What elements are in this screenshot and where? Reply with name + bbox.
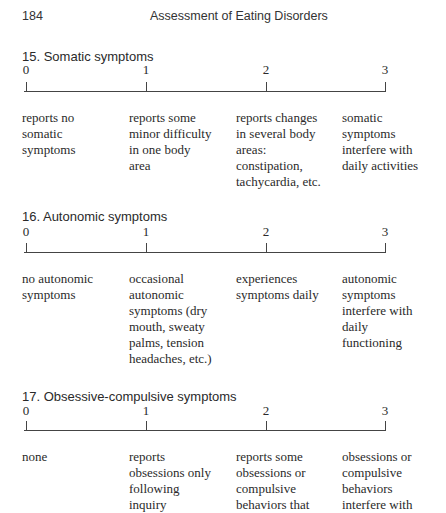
scale-tick — [266, 243, 267, 253]
scale-line — [24, 430, 386, 431]
description-line: minor difficulty — [129, 126, 233, 142]
running-title: Assessment of Eating Disorders — [150, 9, 328, 23]
description-line: somatic — [342, 110, 446, 126]
anchor-description: obsessions orcompulsivebehaviorsinterfer… — [342, 449, 446, 513]
scale-line — [24, 252, 386, 253]
description-line: somatic — [22, 126, 126, 142]
description-line: compulsive — [342, 465, 446, 481]
description-line: behaviors — [342, 481, 446, 497]
description-line: reports changes — [236, 110, 340, 126]
description-line: compulsive — [236, 481, 340, 497]
scale-point-label: 3 — [382, 224, 389, 240]
item-title: 15. Somatic symptoms — [22, 49, 154, 64]
description-line: behaviors that — [236, 497, 340, 513]
description-line: daily — [342, 319, 446, 335]
description-line: functioning — [342, 335, 446, 351]
scale-tick — [26, 82, 27, 92]
description-line: experiences — [236, 271, 340, 287]
description-line: reports — [129, 449, 233, 465]
description-line: areas: — [236, 142, 340, 158]
item-title: 16. Autonomic symptoms — [22, 209, 167, 224]
scale-point-label: 1 — [143, 403, 150, 419]
description-line: area — [129, 158, 233, 174]
scale-tick — [146, 243, 147, 253]
page-number: 184 — [22, 9, 43, 23]
scale-point-label: 2 — [263, 224, 270, 240]
description-line: constipation, — [236, 158, 340, 174]
description-line: tachycardia, etc. — [236, 174, 340, 190]
description-line: in one body — [129, 142, 233, 158]
description-line: no autonomic — [22, 271, 126, 287]
anchor-description: reportsobsessions onlyfollowinginquiry — [129, 449, 233, 513]
description-line: symptoms (dry — [129, 303, 233, 319]
description-line: interfere with — [342, 142, 446, 158]
scale-point-label: 3 — [382, 62, 389, 78]
description-line: obsessions or — [236, 465, 340, 481]
description-line: symptoms — [22, 287, 126, 303]
scale-tick — [266, 421, 267, 431]
description-line: interfere with — [342, 497, 446, 513]
description-line: palms, tension — [129, 335, 233, 351]
description-line: obsessions only — [129, 465, 233, 481]
scale-tick — [385, 243, 386, 253]
anchor-description: autonomicsymptomsinterfere withdailyfunc… — [342, 271, 446, 351]
description-line: in several body — [236, 126, 340, 142]
description-line: following — [129, 481, 233, 497]
description-line: occasional — [129, 271, 233, 287]
anchor-description: reports someminor difficultyin one bodya… — [129, 110, 233, 174]
scale-tick — [146, 421, 147, 431]
description-line: headaches, etc.) — [129, 351, 233, 367]
scale-tick — [26, 243, 27, 253]
scale-point-label: 2 — [263, 62, 270, 78]
anchor-description: somaticsymptomsinterfere withdaily activ… — [342, 110, 446, 174]
scale-tick — [266, 82, 267, 92]
anchor-description: reports nosomaticsymptoms — [22, 110, 126, 158]
scale-point-label: 0 — [23, 403, 30, 419]
scale-point-label: 3 — [382, 403, 389, 419]
anchor-description: occasionalautonomicsymptoms (drymouth, s… — [129, 271, 233, 367]
scale-point-label: 0 — [23, 62, 30, 78]
scale-tick — [146, 82, 147, 92]
description-line: obsessions or — [342, 449, 446, 465]
anchor-description: none — [22, 449, 126, 465]
scale-tick — [26, 421, 27, 431]
item-title: 17. Obsessive-compulsive symptoms — [22, 389, 237, 404]
description-line: daily activities — [342, 158, 446, 174]
scale-point-label: 2 — [263, 403, 270, 419]
description-line: symptoms — [342, 126, 446, 142]
anchor-description: no autonomicsymptoms — [22, 271, 126, 303]
description-line: autonomic — [342, 271, 446, 287]
description-line: autonomic — [129, 287, 233, 303]
scale-point-label: 1 — [143, 224, 150, 240]
anchor-description: reports someobsessions orcompulsivebehav… — [236, 449, 340, 513]
scale-point-label: 1 — [143, 62, 150, 78]
scale-tick — [385, 82, 386, 92]
scale-point-label: 0 — [23, 224, 30, 240]
description-line: symptoms — [342, 287, 446, 303]
description-line: reports some — [129, 110, 233, 126]
description-line: none — [22, 449, 126, 465]
description-line: symptoms — [22, 142, 126, 158]
scale-line — [24, 91, 386, 92]
description-line: reports some — [236, 449, 340, 465]
scale-tick — [385, 421, 386, 431]
description-line: interfere with — [342, 303, 446, 319]
anchor-description: experiencessymptoms daily — [236, 271, 340, 303]
description-line: symptoms daily — [236, 287, 340, 303]
anchor-description: reports changesin several bodyareas:cons… — [236, 110, 340, 190]
description-line: mouth, sweaty — [129, 319, 233, 335]
description-line: reports no — [22, 110, 126, 126]
description-line: inquiry — [129, 497, 233, 513]
